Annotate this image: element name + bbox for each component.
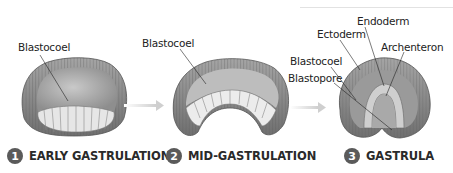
stage-number-badge: 1 [7,148,23,164]
label-blastocoel-stage2: Blastocoel [142,37,194,49]
label-archenteron: Archenteron [381,41,443,53]
stage-arrow-2 [290,102,326,113]
mid-gastrula-embryo [173,59,288,136]
gastrula-embryo [339,58,430,138]
label-endoderm: Endoderm [357,15,409,27]
caption-text: EARLY GASTRULATION [29,149,170,163]
caption-stage-3: 3 GASTRULA [344,148,434,164]
caption-text: MID-GASTRULATION [188,149,316,163]
label-ectoderm: Ectoderm [317,28,366,40]
early-gastrula-embryo [22,58,127,136]
label-blastocoel-stage3: Blastocoel [290,55,342,67]
caption-stage-1: 1 EARLY GASTRULATION [7,148,170,164]
caption-stage-2: 2 MID-GASTRULATION [166,148,316,164]
stage-number-badge: 2 [166,148,182,164]
stage-arrow-1 [124,100,164,111]
stage-number-badge: 3 [344,148,360,164]
label-blastopore: Blastopore [288,72,342,84]
caption-text: GASTRULA [366,149,434,163]
label-blastocoel-stage1: Blastocoel [18,41,70,53]
